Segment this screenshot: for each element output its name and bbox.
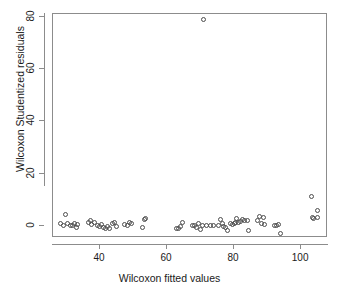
y-axis-tick	[39, 173, 44, 174]
x-axis-tick	[99, 244, 100, 249]
x-axis-tick	[233, 244, 234, 249]
scatter-plot: 406080100 020406080 Wilcoxon fitted valu…	[0, 0, 339, 293]
y-axis-tick	[39, 68, 44, 69]
data-points-layer	[53, 14, 326, 236]
y-axis-tick-label: 0	[25, 219, 36, 231]
data-point	[140, 225, 145, 230]
y-axis-tick-label: 80	[25, 10, 36, 22]
data-point	[180, 220, 185, 225]
x-axis-tick-label: 40	[93, 252, 104, 263]
data-point	[315, 215, 320, 220]
data-point	[278, 231, 283, 236]
x-axis-line	[52, 244, 328, 245]
x-axis-tick-label: 60	[160, 252, 171, 263]
data-point	[75, 222, 80, 227]
y-axis-tick	[39, 225, 44, 226]
data-point	[129, 221, 134, 226]
y-axis-tick-label: 60	[25, 62, 36, 74]
data-point	[107, 226, 112, 231]
y-axis-line	[44, 13, 45, 186]
data-point	[309, 194, 314, 199]
y-axis-tick	[39, 16, 44, 17]
x-axis-title: Wilcoxon fitted values	[0, 272, 339, 284]
data-point	[262, 222, 267, 227]
y-axis-tick-label: 20	[25, 167, 36, 179]
data-point	[315, 208, 320, 213]
data-point	[276, 222, 281, 227]
data-point	[246, 228, 251, 233]
plot-frame	[52, 13, 327, 237]
x-axis-tick	[300, 244, 301, 249]
y-axis-tick	[39, 120, 44, 121]
y-axis-tick-label: 40	[25, 114, 36, 126]
data-point	[245, 218, 250, 223]
x-axis-tick-label: 80	[228, 252, 239, 263]
data-point	[201, 17, 206, 22]
x-axis-tick-label: 100	[292, 252, 309, 263]
y-axis-title: Wilcoxon Studentized residuals	[14, 9, 26, 189]
data-point	[261, 215, 266, 220]
data-point	[143, 216, 148, 221]
x-axis-tick	[166, 244, 167, 249]
data-point	[63, 212, 68, 217]
data-point	[114, 224, 119, 229]
data-point	[225, 228, 230, 233]
